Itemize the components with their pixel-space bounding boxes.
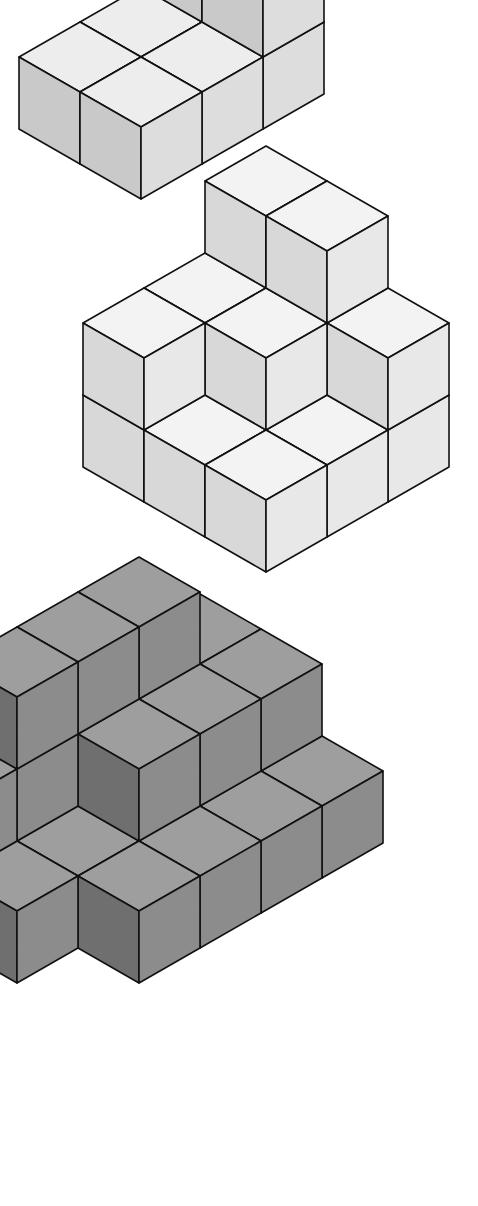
figure-e — [0, 557, 383, 983]
figure-c — [83, 146, 449, 572]
isometric-cube-figures — [0, 0, 478, 1206]
